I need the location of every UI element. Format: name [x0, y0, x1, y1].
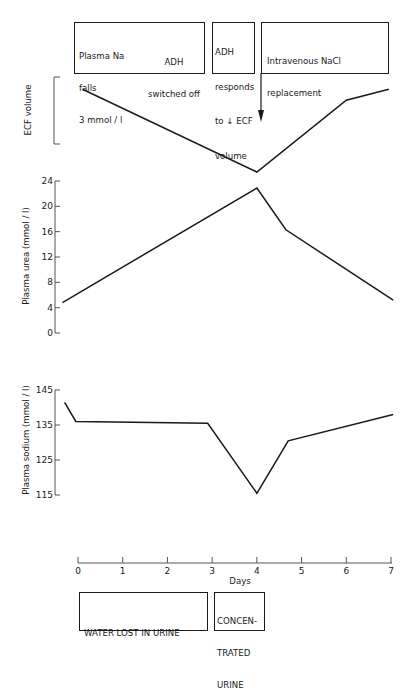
- sodium-y-ticks: 115125135145: [36, 385, 60, 500]
- sodium-panel: 115125135145 Plasma sodium (mmol / l): [21, 385, 393, 500]
- y-tick-label: 24: [42, 176, 54, 186]
- box2-line4: volume: [215, 151, 254, 163]
- days-axis: 01234567 Days: [75, 557, 394, 586]
- box3-line1: Intravenous NaCl: [267, 56, 341, 67]
- day-tick-label: 6: [343, 566, 349, 576]
- y-tick-label: 145: [36, 385, 53, 395]
- y-tick-label: 16: [42, 227, 54, 237]
- urea-panel: 04812162024 Plasma urea (mmol / l): [21, 176, 393, 338]
- box1-left-line3: 3 mmol / l: [79, 115, 124, 126]
- ecf-axis-bracket: [54, 77, 60, 144]
- box1-right-line1: ADH: [148, 57, 200, 68]
- ecf-ylabel: ECF volume: [23, 85, 33, 136]
- y-tick-label: 12: [42, 252, 53, 262]
- y-tick-label: 8: [47, 277, 53, 287]
- box5-line2: TRATED: [217, 648, 257, 659]
- box1-left-line2: falls: [79, 83, 124, 94]
- box-concentrated-urine: CONCEN- TRATED URINE: [214, 592, 265, 631]
- iv-arrow: [258, 73, 264, 122]
- y-tick-label: 20: [42, 201, 54, 211]
- urea-y-ticks: 04812162024: [42, 176, 60, 338]
- days-label: Days: [229, 576, 251, 586]
- box4-line1: WATER LOST IN URINE: [84, 628, 180, 639]
- day-tick-label: 7: [388, 566, 394, 576]
- y-tick-label: 125: [36, 455, 53, 465]
- box5-line3: URINE: [217, 680, 257, 691]
- day-tick-label: 2: [165, 566, 171, 576]
- urea-ylabel: Plasma urea (mmol / l): [21, 207, 31, 305]
- box2-line2: responds: [215, 82, 254, 94]
- urea-line: [62, 188, 393, 303]
- day-tick-label: 3: [209, 566, 215, 576]
- box1-left-line1: Plasma Na: [79, 51, 124, 62]
- y-tick-label: 0: [47, 328, 53, 338]
- y-tick-label: 115: [36, 490, 53, 500]
- y-tick-label: 4: [47, 303, 53, 313]
- day-tick-label: 1: [120, 566, 126, 576]
- y-tick-label: 135: [36, 420, 53, 430]
- box-water-lost: WATER LOST IN URINE: [79, 592, 208, 631]
- box-adh-responds: ADH responds to ↓ ECF volume: [212, 22, 255, 74]
- box2-line1: ADH: [215, 47, 254, 59]
- sodium-ylabel: Plasma sodium (mmol / l): [21, 385, 31, 495]
- day-tick-label: 0: [75, 566, 81, 576]
- box3-line2: replacement: [267, 88, 341, 99]
- box-iv-nacl: Intravenous NaCl replacement: [261, 22, 389, 74]
- box2-line3: to ↓ ECF: [215, 116, 254, 128]
- day-tick-label: 5: [299, 566, 305, 576]
- day-tick-label: 4: [254, 566, 260, 576]
- box1-right-line2: switched off: [148, 89, 200, 100]
- box-plasma-na-falls: Plasma Na falls 3 mmol / l ADH switched …: [74, 22, 205, 74]
- day-ticks: 01234567: [75, 557, 394, 576]
- sodium-line: [65, 402, 394, 493]
- box5-line1: CONCEN-: [217, 616, 257, 627]
